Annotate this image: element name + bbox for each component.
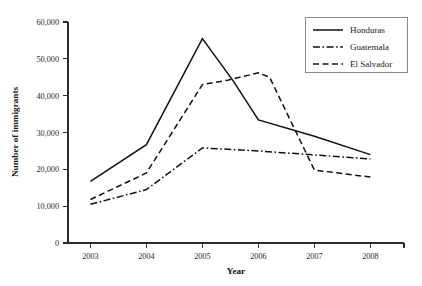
legend-label-honduras: Honduras (350, 25, 385, 35)
y-axis-title: Number of immigrants (10, 86, 20, 177)
series-line-guatemala (90, 148, 370, 204)
y-tick-label: 0 (55, 239, 59, 248)
x-tick-label: 2003 (82, 252, 98, 261)
y-tick-label: 50,000 (36, 55, 59, 64)
x-tick-label: 2005 (194, 252, 210, 261)
legend-label-guatemala: Guatemala (350, 42, 389, 52)
chart-canvas: 010,00020,00030,00040,00050,00060,000 20… (0, 0, 422, 286)
y-tick-label: 40,000 (36, 92, 59, 101)
y-tick-label: 20,000 (36, 165, 59, 174)
series-line-el-salvador (90, 73, 370, 200)
legend: HondurasGuatemalaEl Salvador (306, 18, 408, 73)
x-tick-label: 2007 (306, 252, 322, 261)
y-tick-label: 10,000 (36, 202, 59, 211)
x-tick-label: 2008 (362, 252, 378, 261)
y-axis-ticks: 010,00020,00030,00040,00050,00060,000 (36, 18, 68, 248)
x-tick-label: 2004 (138, 252, 154, 261)
x-axis-ticks: 200320042005200620072008 (82, 243, 404, 261)
y-tick-label: 60,000 (36, 18, 59, 27)
x-axis-title: Year (227, 266, 245, 276)
y-tick-label: 30,000 (36, 129, 59, 138)
legend-label-el-salvador: El Salvador (350, 59, 392, 69)
line-chart: 010,00020,00030,00040,00050,00060,000 20… (0, 0, 422, 286)
x-tick-label: 2006 (250, 252, 266, 261)
